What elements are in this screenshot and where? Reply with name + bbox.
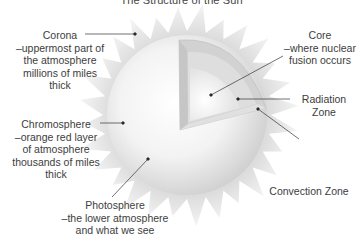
label-radiation-name: Radiation [294,93,354,106]
label-radiation-zone: Radiation Zone [294,93,354,118]
label-chromosphere: Chromosphere –orange red layer of atmosp… [6,118,106,181]
label-photosphere-name: Photosphere [55,199,175,212]
label-photosphere: Photosphere –the lower atmosphere and wh… [55,199,175,237]
label-core-name: Core [280,29,360,42]
label-corona: Corona –uppermost part of the atmosphere… [10,29,110,92]
label-chromosphere-name: Chromosphere [6,118,106,131]
label-core: Core –where nuclear fusion occurs [280,29,360,67]
label-convection-name: Convection Zone [264,185,354,198]
label-convection-zone: Convection Zone [264,185,354,198]
label-corona-name: Corona [10,29,110,42]
